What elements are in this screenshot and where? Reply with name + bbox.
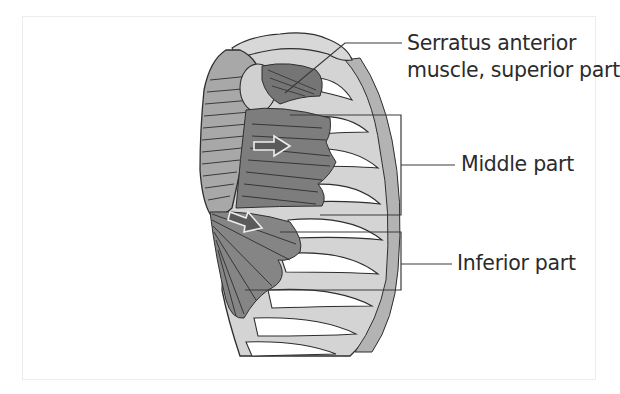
superior-part-label-line1: Serratus anterior [407,30,620,57]
superior-part-label: Serratus anterior muscle, superior part [407,30,620,84]
inferior-part-label: Inferior part [457,250,576,277]
middle-part-label: Middle part [461,151,574,178]
superior-part-label-line2: muscle, superior part [407,57,620,84]
middle-part-muscle [236,108,336,208]
